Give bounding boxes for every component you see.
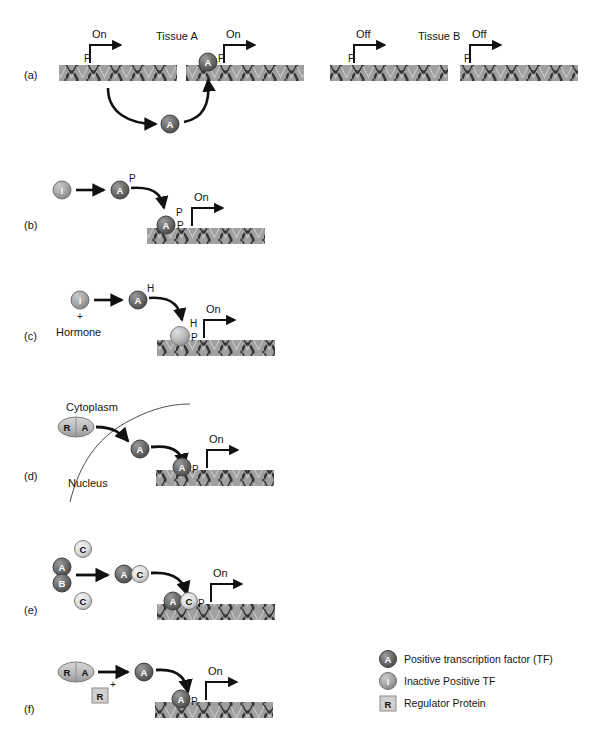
tf-bound-f-letter: A: [178, 694, 185, 705]
tf-bound-e-c-letter: C: [186, 596, 193, 607]
tf-inactive-c: I: [71, 291, 89, 309]
tf-bound-b-letter: A: [163, 220, 170, 231]
tf-active-b-letter: A: [117, 185, 124, 196]
legend-regulator-label: Regulator Protein: [404, 697, 486, 709]
tf-bound-b: A: [157, 216, 175, 234]
diagram-svg: (a) Tissue A Tissue B P On P On A A: [0, 0, 602, 734]
panel-a-label: (a): [24, 69, 37, 81]
legend-tf-active-label: Positive transcription factor (TF): [404, 653, 553, 665]
cofactor-c-top: C: [75, 541, 92, 558]
tf-active-b: A: [111, 181, 129, 199]
state-f: On: [208, 665, 223, 677]
tf-bound-a2-letter: A: [205, 57, 212, 68]
background: [0, 0, 602, 734]
dna-d-panel: [156, 470, 274, 486]
state-a2: On: [226, 28, 241, 40]
dimer-b-letter: B: [59, 578, 66, 589]
tf-free-a-letter: A: [167, 119, 174, 130]
ra-complex-f: R A: [58, 662, 94, 682]
ra-complex-d: R A: [58, 417, 94, 437]
tf-bound-d-letter: A: [179, 462, 186, 473]
tissue-a-title: Tissue A: [156, 30, 198, 42]
panel-d-label: (d): [24, 470, 37, 482]
legend-item-regulator: R Regulator Protein: [380, 696, 486, 711]
hormone-label: Hormone: [56, 326, 101, 338]
cofactor-c-top-letter: C: [80, 544, 87, 555]
phospho-mark-b2: P: [177, 220, 184, 231]
legend-tf-inactive-label: Inactive Positive TF: [404, 675, 495, 687]
tf-inactive-b-letter: I: [61, 185, 64, 196]
legend-regulator-glyph: R: [385, 699, 392, 710]
state-d: On: [209, 433, 224, 445]
cytoplasm-label: Cytoplasm: [66, 401, 118, 413]
dimer-a-letter: A: [59, 562, 66, 573]
phospho-mark-f: P: [191, 696, 198, 707]
legend-tf-inactive-glyph: I: [387, 676, 390, 687]
tissue-b-title: Tissue B: [418, 30, 460, 42]
tf-active-c-letter: A: [135, 295, 142, 306]
ra-complex-f-r: R: [64, 667, 71, 678]
ra-complex-d-a: A: [82, 422, 89, 433]
tf-bound-c: [171, 327, 190, 346]
tf-free-f-letter: A: [141, 667, 148, 678]
dna-b1: [330, 65, 448, 81]
regulator-released-f-letter: R: [97, 691, 104, 702]
tf-inactive-b: I: [53, 181, 71, 199]
phospho-mark-d: P: [192, 464, 199, 475]
tf-bound-d: A: [173, 458, 191, 476]
heterodimer-a-letter: A: [121, 569, 128, 580]
state-c: On: [206, 303, 221, 315]
tf-free-f: A: [135, 663, 153, 681]
nucleus-label: Nucleus: [68, 477, 108, 489]
state-b1: Off: [356, 28, 371, 40]
dna-f-panel: [155, 702, 273, 718]
ra-complex-d-r: R: [64, 422, 71, 433]
panel-f-label: (f): [24, 703, 34, 715]
dna-a1: [59, 65, 177, 81]
tf-active-c: A: [129, 291, 147, 309]
hormone-mark-c: H: [190, 318, 197, 329]
state-b2: Off: [472, 28, 487, 40]
phospho-mark-b1: P: [176, 207, 183, 218]
tf-inactive-c-letter: I: [79, 295, 82, 306]
dna-b2: [460, 65, 578, 81]
tf-free-d: A: [131, 440, 149, 458]
tf-free-d-letter: A: [137, 444, 144, 455]
state-e: On: [213, 567, 228, 579]
panel-b-label: (b): [24, 219, 37, 231]
heterodimer-c-letter: C: [137, 569, 144, 580]
legend-tf-active-glyph: A: [385, 654, 392, 665]
phospho-mark-b-free: P: [129, 173, 136, 184]
panel-e-label: (e): [24, 604, 37, 616]
legend-item-tf-active: A Positive transcription factor (TF): [380, 651, 553, 668]
cofactor-c-bottom-letter: C: [80, 596, 87, 607]
tf-bound-e-a-letter: A: [170, 596, 177, 607]
tf-bound-a2: A: [199, 53, 217, 71]
ra-complex-f-a: A: [82, 667, 89, 678]
state-a1: On: [92, 28, 107, 40]
phospho-mark-c: P: [191, 332, 198, 343]
panel-c-label: (c): [24, 330, 37, 342]
regulator-released-f: R: [92, 688, 108, 703]
plus-sign-f: +: [110, 679, 116, 690]
tf-bound-f: A: [172, 690, 190, 708]
figure-canvas: (a) Tissue A Tissue B P On P On A A: [0, 0, 602, 734]
plus-sign-c: +: [77, 311, 83, 322]
phospho-mark-e: P: [198, 598, 205, 609]
hormone-mark-c-free: H: [147, 283, 154, 294]
tf-free-a: A: [161, 115, 179, 133]
state-b: On: [194, 191, 209, 203]
cofactor-c-bottom: C: [75, 593, 92, 610]
